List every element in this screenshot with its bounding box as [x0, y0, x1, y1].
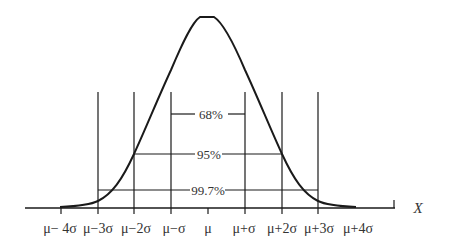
label-95: 95% — [197, 147, 221, 162]
normal-distribution-diagram: 68% 95% 99.7% μ− 4σ μ−3σ μ−2σ μ−σ μ μ+σ … — [0, 0, 449, 251]
interval-68: 68% — [171, 107, 245, 122]
tick-label-mu: μ — [204, 221, 212, 236]
tick-labels: μ− 4σ μ−3σ μ−2σ μ−σ μ μ+σ μ+2σ μ+3σ μ+4σ — [43, 221, 373, 236]
label-68: 68% — [199, 107, 223, 122]
tick-label-mu-plus-4sigma: μ+4σ — [343, 221, 373, 236]
tick-label-mu-minus-4sigma: μ− 4σ — [43, 221, 77, 236]
interval-99-7: 99.7% — [98, 183, 318, 198]
x-axis-label: X — [412, 200, 423, 216]
label-99-7: 99.7% — [191, 183, 225, 198]
tick-label-mu-minus-2sigma: μ−2σ — [121, 221, 151, 236]
interval-95: 95% — [134, 147, 282, 162]
tick-label-mu-plus-2sigma: μ+2σ — [267, 221, 297, 236]
tick-label-mu-minus-sigma: μ−σ — [163, 221, 186, 236]
tick-label-mu-plus-3sigma: μ+3σ — [304, 221, 334, 236]
tick-label-mu-minus-3sigma: μ−3σ — [83, 221, 113, 236]
tick-label-mu-plus-sigma: μ+σ — [233, 221, 256, 236]
